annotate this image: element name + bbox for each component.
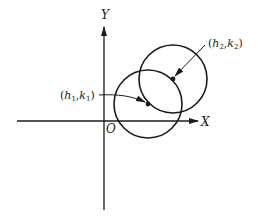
two-circles-diagram: X Y O (h1,k1) (h2,k2) (0, 0, 258, 223)
origin-label: O (106, 122, 116, 136)
leader-arrow-1 (99, 95, 145, 102)
x-axis-label: X (200, 115, 210, 129)
center-label-2: (h2,k2) (208, 37, 243, 51)
center-point-2 (171, 77, 176, 82)
center-label-1: (h1,k1) (60, 89, 95, 103)
y-axis-label: Y (101, 8, 110, 22)
circle-2 (139, 45, 207, 113)
